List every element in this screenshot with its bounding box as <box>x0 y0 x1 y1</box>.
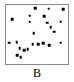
data-point <box>62 8 65 11</box>
data-point <box>48 44 51 47</box>
data-point <box>28 20 31 23</box>
data-point <box>49 26 52 29</box>
data-point <box>47 7 50 10</box>
data-point <box>34 7 37 10</box>
data-point <box>15 41 18 44</box>
data-point <box>43 15 46 18</box>
data-point <box>53 30 56 33</box>
plot-label: B <box>0 66 74 80</box>
data-point <box>37 43 40 46</box>
data-point <box>28 14 31 17</box>
data-point <box>59 20 62 23</box>
plot-frame <box>5 4 69 65</box>
data-point <box>26 48 29 51</box>
data-point <box>16 54 19 57</box>
data-point <box>46 21 49 24</box>
data-point <box>59 41 62 44</box>
plot-area <box>6 5 68 64</box>
scatter-figure: B <box>0 0 74 82</box>
data-point <box>8 41 11 44</box>
data-point <box>42 42 45 45</box>
data-point <box>11 18 14 21</box>
data-point <box>23 49 26 52</box>
data-point <box>33 32 36 35</box>
data-point <box>31 43 34 46</box>
data-point <box>20 56 23 59</box>
data-point <box>18 47 21 50</box>
